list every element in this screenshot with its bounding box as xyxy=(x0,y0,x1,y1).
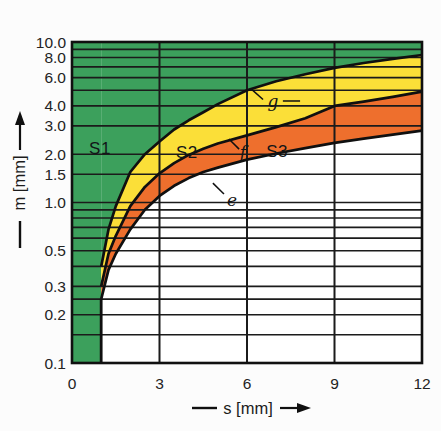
y-tick-label: 0.3 xyxy=(44,278,66,295)
region-label-s1: S1 xyxy=(89,139,111,158)
y-tick-label: 2.0 xyxy=(44,146,66,163)
region-label-s2: S2 xyxy=(176,143,198,162)
x-tick-label: 3 xyxy=(155,375,164,392)
curve-label-g: g xyxy=(268,91,279,111)
up-arrow-icon xyxy=(15,111,25,125)
y-tick-label: 4.0 xyxy=(44,97,66,114)
y-tick-label: 3.0 xyxy=(44,117,66,134)
chart-svg: S1S2S3gfe10.08.06.04.03.02.01.51.00.50.3… xyxy=(0,0,441,431)
x-tick-label: 6 xyxy=(243,375,252,392)
region-label-s3: S3 xyxy=(266,142,288,161)
y-tick-label: 1.5 xyxy=(44,166,66,183)
x-tick-label: 12 xyxy=(413,375,430,392)
x-tick-label: 0 xyxy=(68,375,77,392)
y-axis-title: m [mm] xyxy=(10,156,28,211)
y-tick-label: 0.5 xyxy=(44,242,66,259)
y-tick-label: 10.0 xyxy=(36,34,67,51)
x-axis-title: s [mm] xyxy=(223,399,273,417)
y-tick-label: 6.0 xyxy=(44,69,66,86)
right-arrow-icon xyxy=(297,403,311,413)
x-tick-label: 9 xyxy=(330,375,339,392)
y-tick-label: 1.0 xyxy=(44,194,66,211)
y-tick-label: 0.2 xyxy=(44,306,66,323)
y-tick-label: 0.1 xyxy=(44,355,66,372)
y-tick-label: 8.0 xyxy=(44,49,66,66)
curve-label-e: e xyxy=(227,190,237,210)
figure-page: S1S2S3gfe10.08.06.04.03.02.01.51.00.50.3… xyxy=(0,0,441,431)
